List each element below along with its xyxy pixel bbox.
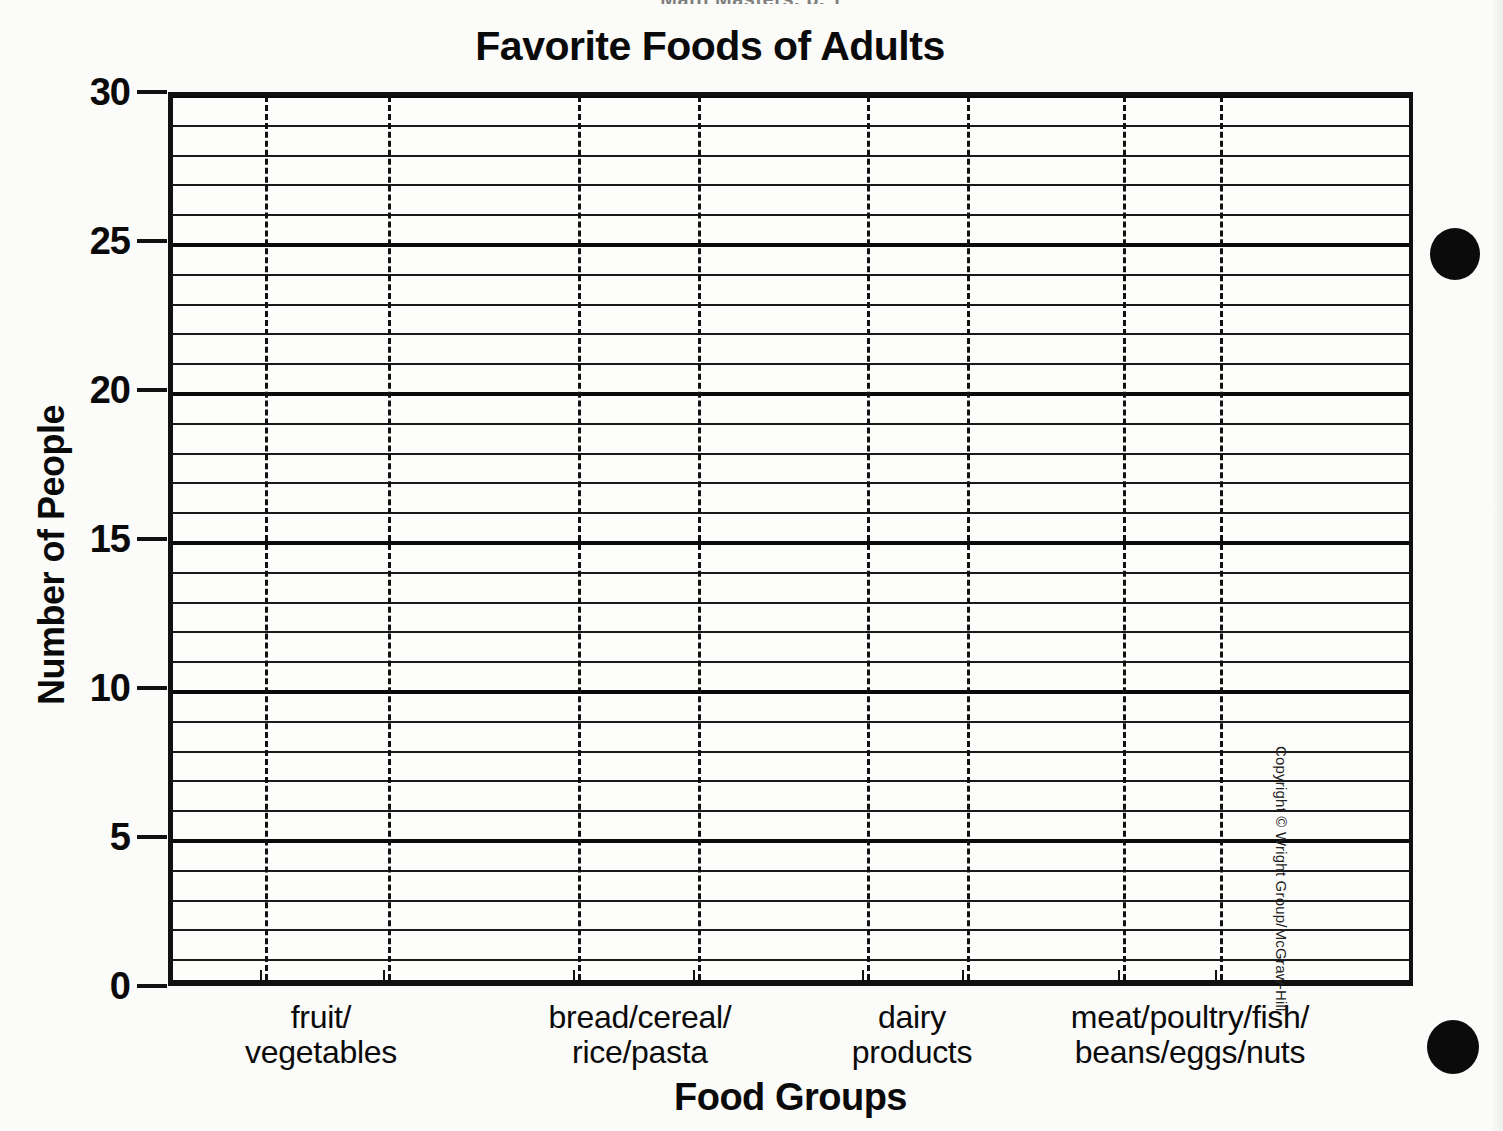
x-axis-category-line: fruit/ (245, 1000, 397, 1035)
gridline-minor (173, 602, 1409, 604)
gridline-vertical-dashed (867, 96, 870, 980)
y-axis-tick-label: 10 (90, 669, 130, 707)
y-axis-tick-label: 5 (110, 818, 130, 856)
x-axis-tick-mark (383, 970, 385, 986)
gridline-minor (173, 631, 1409, 633)
gridline-vertical-dashed (967, 96, 970, 980)
x-axis-category-label: fruit/vegetables (245, 1000, 397, 1070)
x-axis-tick-mark (1118, 970, 1120, 986)
x-axis-category-label: bread/cereal/rice/pasta (549, 1000, 732, 1070)
gridline-minor (173, 512, 1409, 514)
x-axis-tick-mark (862, 970, 864, 986)
gridline-major (173, 690, 1409, 694)
gridline-minor (173, 482, 1409, 484)
gridline-minor (173, 184, 1409, 186)
gridline-vertical-dashed (1123, 96, 1126, 980)
gridline-minor (173, 214, 1409, 216)
gridline-major (173, 243, 1409, 247)
gridline-vertical-dashed (1220, 96, 1223, 980)
y-axis-tick-mark (137, 239, 167, 243)
gridline-minor (173, 572, 1409, 574)
gridline-minor (173, 333, 1409, 335)
gridline-minor (173, 810, 1409, 812)
page-edge-shadow (1491, 0, 1503, 1131)
punch-dot-bottom-icon (1427, 1020, 1479, 1074)
x-axis-tick-mark (573, 970, 575, 986)
gridline-minor (173, 721, 1409, 723)
y-axis-tick-mark (137, 984, 167, 988)
gridline-vertical-dashed (265, 96, 268, 980)
x-axis-tick-mark (1215, 970, 1217, 986)
gridline-major (173, 94, 1409, 98)
gridline-minor (173, 780, 1409, 782)
x-axis-tick-mark (260, 970, 262, 986)
gridline-minor (173, 274, 1409, 276)
plot-area[interactable] (168, 92, 1413, 986)
x-axis-category-group: fruit/vegetablesbread/cereal/rice/pastad… (168, 1000, 1413, 1072)
gridline-major (173, 392, 1409, 396)
x-axis-tick-mark (962, 970, 964, 986)
gridline-minor (173, 900, 1409, 902)
x-axis-title: Food Groups (168, 1076, 1413, 1119)
y-axis-tick-mark (137, 90, 167, 94)
gridline-minor (173, 751, 1409, 753)
gridline-major (173, 541, 1409, 545)
gridline-vertical-dashed (578, 96, 581, 980)
gridline-vertical-dashed (698, 96, 701, 980)
y-axis-tick-mark (137, 388, 167, 392)
cut-off-header-text: Math Masters, p. 1 (0, 0, 1503, 4)
x-axis-category-line: rice/pasta (549, 1035, 732, 1070)
chart-title: Favorite Foods of Adults (0, 26, 1420, 67)
y-axis-tick-label: 25 (90, 222, 130, 260)
y-axis-tick-mark (137, 537, 167, 541)
gridline-minor (173, 125, 1409, 127)
gridline-minor (173, 661, 1409, 663)
punch-dot-top-icon (1430, 228, 1480, 280)
y-axis-tick-label: 20 (90, 371, 130, 409)
x-axis-tick-mark (693, 970, 695, 986)
y-axis-tick-label: 0 (110, 967, 130, 1005)
gridline-minor (173, 155, 1409, 157)
copyright-notice: Copyright © Wright Group/McGraw-Hill (1273, 746, 1290, 1126)
x-axis-category-line: bread/cereal/ (549, 1000, 732, 1035)
x-axis-category-line: vegetables (245, 1035, 397, 1070)
gridline-minor (173, 304, 1409, 306)
x-axis-category-label: dairyproducts (852, 1000, 972, 1070)
y-axis-tick-label: 30 (90, 73, 130, 111)
y-axis-tick-group: 051015202530 (0, 0, 168, 1131)
gridline-minor (173, 870, 1409, 872)
gridline-vertical-dashed (388, 96, 391, 980)
gridline-minor (173, 363, 1409, 365)
gridline-minor (173, 453, 1409, 455)
gridline-major (173, 839, 1409, 843)
x-axis-category-line: dairy (852, 1000, 972, 1035)
gridline-minor (173, 959, 1409, 961)
x-axis-category-line: products (852, 1035, 972, 1070)
y-axis-tick-mark (137, 835, 167, 839)
y-axis-tick-mark (137, 686, 167, 690)
y-axis-tick-label: 15 (90, 520, 130, 558)
gridline-minor (173, 423, 1409, 425)
gridline-minor (173, 929, 1409, 931)
